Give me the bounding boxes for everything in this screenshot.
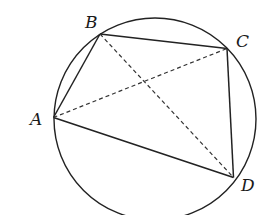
side-cd bbox=[227, 49, 234, 178]
side-ab bbox=[54, 34, 101, 118]
vertex-label-b: B bbox=[84, 12, 98, 32]
side-da bbox=[54, 118, 234, 178]
cyclic-quadrilateral-diagram: A B C D bbox=[0, 0, 269, 215]
vertex-label-d: D bbox=[240, 175, 255, 195]
vertex-label-a: A bbox=[28, 109, 42, 129]
diagonal-ac bbox=[54, 49, 228, 118]
side-bc bbox=[100, 34, 227, 49]
vertex-label-c: C bbox=[236, 31, 249, 51]
circumcircle bbox=[54, 18, 256, 215]
